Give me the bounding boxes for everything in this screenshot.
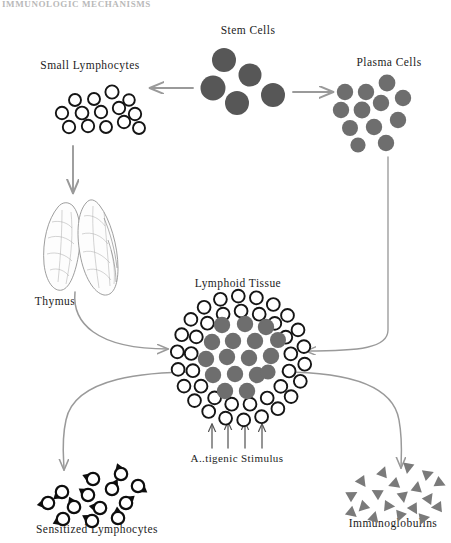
lymphoid-core-cell bbox=[247, 333, 263, 349]
small-lymphocyte-cell bbox=[118, 116, 130, 128]
lymphoid-ring-cell bbox=[294, 375, 307, 388]
label-thymus: Thymus bbox=[35, 295, 75, 308]
lymphoid-core-cell bbox=[258, 319, 274, 335]
stem-cell bbox=[261, 83, 285, 107]
lymphoid-ring-cell bbox=[298, 358, 311, 371]
stem-cells-cluster bbox=[201, 48, 286, 115]
lymphoid-ring-cell bbox=[267, 298, 280, 311]
immunoglobulin-molecule bbox=[401, 463, 414, 475]
lymphoid-ring-cell bbox=[219, 412, 232, 425]
lymphoid-core-cell bbox=[204, 334, 220, 350]
lymphoid-core-cell bbox=[214, 317, 230, 333]
cropped-header-text: IMMUNOLOGIC MECHANISMS bbox=[2, 0, 151, 9]
small-lymphocyte-cell bbox=[100, 121, 112, 133]
lymphoid-ring-cell bbox=[244, 398, 257, 411]
label-stem-cells: Stem Cells bbox=[221, 24, 276, 36]
lymphoid-core-cell bbox=[241, 350, 257, 366]
lymphoid-ring-cell bbox=[292, 324, 305, 337]
sensitized-lymphocyte-tail bbox=[114, 507, 121, 512]
small-lymphocyte-cell bbox=[69, 94, 81, 106]
stem-cell bbox=[225, 91, 249, 115]
lymphoid-core-cell bbox=[217, 383, 233, 399]
plasma-cell bbox=[373, 95, 389, 111]
lymphoid-ring-cell bbox=[298, 340, 311, 353]
immunoglobulins-cluster bbox=[345, 463, 448, 525]
lymphoid-ring-cell bbox=[283, 365, 296, 378]
small-lymphocyte-cell bbox=[76, 107, 89, 120]
immunoglobulin-molecule bbox=[355, 475, 370, 490]
lymphoid-ring-cell bbox=[232, 290, 245, 303]
plasma-cells-cluster bbox=[333, 75, 411, 153]
plasma-cell bbox=[342, 120, 358, 136]
plasma-cell bbox=[378, 135, 394, 151]
small-lymphocyte-cell bbox=[113, 102, 125, 114]
immunoglobulin-molecule bbox=[430, 501, 442, 513]
lymphoid-ring-cell bbox=[272, 402, 285, 415]
lymphoid-core-cell bbox=[237, 316, 253, 332]
sensitized-lymphocyte-cell bbox=[89, 502, 106, 514]
immunoglobulin-molecule bbox=[376, 464, 390, 478]
immunoglobulin-molecule bbox=[355, 500, 371, 516]
label-antigenic-stimulus: A..tigenic Stimulus bbox=[191, 452, 284, 464]
plasma-cell bbox=[379, 75, 396, 92]
lymphoid-ring-cell bbox=[187, 364, 200, 377]
lymphoid-core-cell bbox=[205, 367, 221, 383]
lymphoid-ring-cell bbox=[202, 405, 215, 418]
small-lymphocyte-cell bbox=[88, 93, 100, 105]
small-lymphocyte-cell bbox=[56, 107, 68, 119]
lymphoid-ring-cell bbox=[201, 317, 214, 330]
lymphoid-core-cell bbox=[270, 332, 286, 348]
immunoglobulin-molecule bbox=[422, 490, 437, 505]
lymphoid-ring-cell bbox=[175, 328, 188, 341]
lymphoid-ring-cell bbox=[214, 293, 227, 306]
lymphoid-core-cell bbox=[227, 366, 243, 382]
lymphoid-ring-cell bbox=[284, 347, 297, 360]
sensitized-lymphocyte-cell bbox=[120, 496, 135, 509]
label-plasma-cells: Plasma Cells bbox=[356, 56, 421, 68]
immunoglobulin-molecule bbox=[397, 492, 410, 504]
small-lymphocyte-cell bbox=[105, 85, 118, 98]
lymphoid-ring-cell bbox=[281, 309, 294, 322]
sensitized-lymphocytes-cluster bbox=[37, 463, 148, 527]
lymphoid-ring-cell bbox=[274, 380, 287, 393]
sensitized-lymphocyte-cell bbox=[132, 480, 148, 493]
plasma-cell bbox=[395, 90, 411, 106]
lymphoid-ring-cell bbox=[285, 390, 298, 403]
lymphoid-ring-cell bbox=[171, 345, 184, 358]
plasma-cell bbox=[358, 84, 374, 100]
plasma-cell bbox=[337, 84, 353, 100]
sensitized-lymphocyte-cell bbox=[37, 497, 54, 509]
small-lymphocyte-cell bbox=[133, 122, 145, 134]
plasma-cell bbox=[333, 102, 349, 118]
lymphoid-ring-cell bbox=[185, 347, 198, 360]
small-lymphocyte-cell bbox=[95, 106, 107, 118]
label-lymphoid-tissue: Lymphoid Tissue bbox=[195, 277, 281, 290]
label-small-lymphocytes: Small Lymphocytes bbox=[40, 59, 139, 72]
small-lymphocyte-cell bbox=[82, 120, 94, 132]
lymphoid-ring-cell bbox=[237, 414, 250, 427]
arrow-plasma-to-lymphoid bbox=[306, 157, 388, 351]
lymphoid-ring-cell bbox=[190, 331, 203, 344]
immunoglobulin-molecule bbox=[369, 485, 384, 500]
lymphoid-core-cell bbox=[219, 349, 235, 365]
lymphoid-ring-cell bbox=[235, 305, 248, 318]
stem-cell bbox=[239, 64, 262, 87]
sensitized-lymphocyte-cell bbox=[53, 513, 69, 525]
immunoglobulin-molecule bbox=[422, 467, 436, 481]
lymphoid-ring-cell bbox=[250, 291, 263, 304]
arrow-thymus-to-lymphoid bbox=[75, 292, 168, 349]
small-lymphocyte-cell bbox=[129, 108, 141, 120]
stem-cell bbox=[212, 48, 236, 72]
immunoglobulin-molecule bbox=[384, 500, 396, 512]
lymphoid-core-cell bbox=[239, 383, 255, 399]
lymphoid-ring-cell bbox=[225, 398, 238, 411]
immunoglobulin-molecule bbox=[386, 477, 400, 491]
small-lymphocyte-cell bbox=[63, 121, 75, 133]
lymphoid-core-cell bbox=[263, 348, 279, 364]
lymphoid-ring-cell bbox=[253, 308, 266, 321]
immunoglobulin-molecule bbox=[345, 487, 360, 502]
sensitized-lymphocyte-cell bbox=[68, 497, 80, 514]
lymphoid-core-cell bbox=[225, 333, 241, 349]
plasma-cell bbox=[350, 137, 365, 152]
lymphoid-ring-cell bbox=[255, 410, 268, 423]
